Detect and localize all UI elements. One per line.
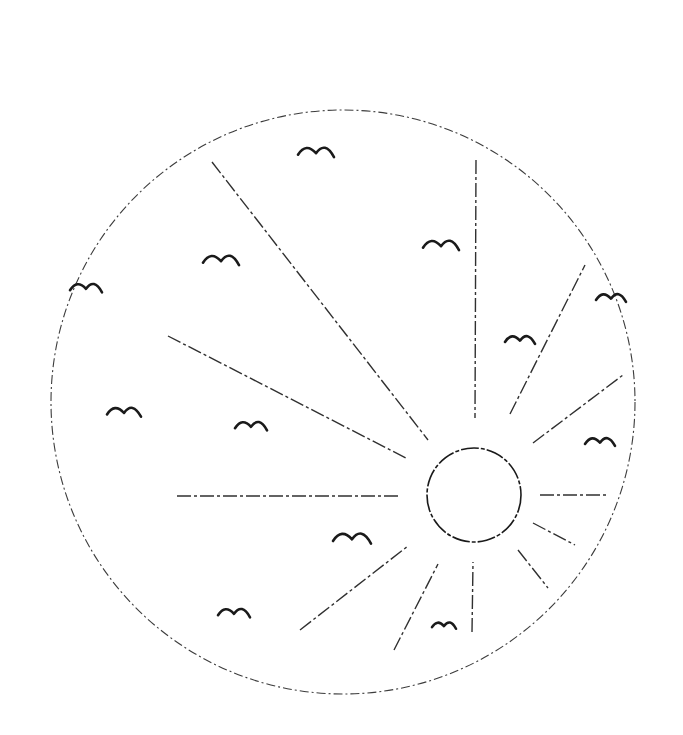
outer-circle-outline <box>51 110 635 694</box>
bird-icon <box>333 534 371 544</box>
sun-ray <box>212 162 428 440</box>
sun-ray <box>533 523 575 545</box>
sun-and-birds-drawing <box>0 0 683 735</box>
bird-icon <box>298 148 334 157</box>
sun-ray <box>472 562 473 632</box>
sun-circle <box>427 448 521 542</box>
bird-icon <box>218 609 250 617</box>
line-drawing-canvas <box>0 0 683 735</box>
bird-icon <box>596 294 626 302</box>
bird-icon <box>432 622 456 628</box>
bird-icon <box>505 336 535 344</box>
sun-ray <box>394 564 438 650</box>
sun-rays <box>168 160 623 650</box>
bird-icon <box>585 438 615 446</box>
sun-ray <box>475 160 476 418</box>
bird-icon <box>107 408 141 417</box>
bird-icon <box>203 256 239 265</box>
sun-ray <box>533 375 623 443</box>
bird-icon <box>423 241 459 250</box>
outer-circle <box>51 110 635 694</box>
bird-icon <box>70 284 102 292</box>
sun-icon <box>427 448 521 542</box>
sun-ray <box>300 546 408 630</box>
sun-ray <box>168 336 408 459</box>
sun-ray <box>518 550 548 588</box>
birds <box>70 148 626 629</box>
bird-icon <box>235 422 267 430</box>
